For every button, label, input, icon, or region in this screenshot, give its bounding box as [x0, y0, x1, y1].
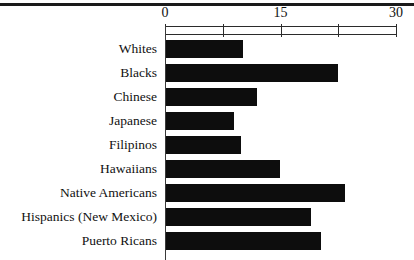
bar-track — [166, 136, 241, 154]
bar-track — [166, 208, 311, 226]
bar-row: Filipinos — [0, 136, 414, 160]
bar — [166, 208, 311, 226]
x-axis-tick-label: 30 — [376, 4, 414, 22]
x-axis-tick-label: 0 — [145, 4, 185, 22]
bar-row: Whites — [0, 40, 414, 64]
bar-category-label: Japanese — [0, 112, 157, 130]
bar-row: Hawaiians — [0, 160, 414, 184]
bar-track — [166, 64, 338, 82]
bar-track — [166, 184, 345, 202]
bar-track — [166, 232, 321, 250]
bar — [166, 232, 321, 250]
bar-category-label: Filipinos — [0, 136, 157, 154]
bar-rows: WhitesBlacksChineseJapaneseFilipinosHawa… — [0, 40, 414, 256]
bar-category-label: Chinese — [0, 88, 157, 106]
x-axis-tick — [396, 24, 397, 37]
x-axis-tick — [338, 24, 339, 37]
bar-row: Hispanics (New Mexico) — [0, 208, 414, 232]
bar-row: Japanese — [0, 112, 414, 136]
x-axis — [165, 26, 396, 35]
bar — [166, 112, 234, 130]
bar-row: Blacks — [0, 64, 414, 88]
bar-category-label: Blacks — [0, 64, 157, 82]
bar — [166, 160, 280, 178]
bar-row: Puerto Ricans — [0, 232, 414, 256]
bar-category-label: Puerto Ricans — [0, 232, 157, 250]
bar-row: Chinese — [0, 88, 414, 112]
bar-chart-figure: 01530 WhitesBlacksChineseJapaneseFilipin… — [0, 0, 414, 260]
x-axis-tick — [223, 24, 224, 37]
bar — [166, 184, 345, 202]
bar-category-label: Native Americans — [0, 184, 157, 202]
bar — [166, 64, 338, 82]
bar-category-label: Hawaiians — [0, 160, 157, 178]
bar — [166, 40, 243, 58]
bar-row: Native Americans — [0, 184, 414, 208]
bar-track — [166, 160, 280, 178]
bar-category-label: Whites — [0, 40, 157, 58]
bar-track — [166, 112, 234, 130]
bar-track — [166, 40, 243, 58]
bar — [166, 88, 257, 106]
bar — [166, 136, 241, 154]
x-axis-tick — [281, 24, 282, 37]
x-axis-tick-labels: 01530 — [0, 4, 414, 24]
bar-track — [166, 88, 257, 106]
bar-category-label: Hispanics (New Mexico) — [0, 208, 157, 226]
x-axis-tick-label: 15 — [261, 4, 301, 22]
